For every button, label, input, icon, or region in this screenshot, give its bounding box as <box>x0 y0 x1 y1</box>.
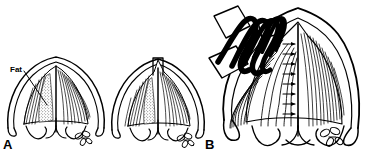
panel-letter-b: B <box>205 138 214 151</box>
fat-callout-label: Fat <box>10 66 22 74</box>
panel-letter-a: A <box>3 138 12 151</box>
figure-root: A B Fat <box>0 0 366 158</box>
anatomical-figure-svg <box>0 0 366 158</box>
